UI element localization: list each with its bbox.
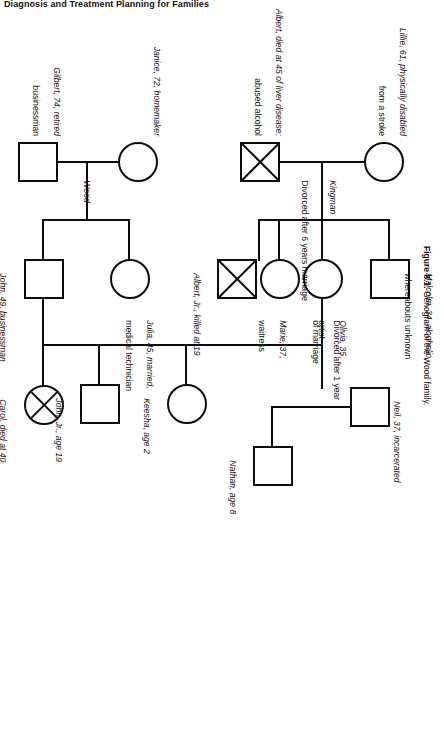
family-name-wood-text: Wood <box>82 180 92 202</box>
person-label-nathan-line1: Nathan, age 8 <box>228 460 238 514</box>
person-label-albert: Albert, died at 45 of liver disease: abu… <box>242 0 294 136</box>
person-label-marie-line2: waitress <box>257 320 267 352</box>
union-riser-neil <box>322 406 350 408</box>
person-label-julia-line1: Julia, 45, married, <box>145 320 155 388</box>
child-link-olivia <box>321 219 323 261</box>
running-head: Diagnosis and Treatment Planning for Fam… <box>4 0 209 9</box>
person-label-neil-line1: Neil, 37, incarcerated <box>392 401 402 482</box>
relationship-note-divorce-1yr-line2: of marriage <box>311 320 321 363</box>
person-label-malcolm-line1: Malcolm, 34, alcoholic, <box>424 273 434 360</box>
child-link-nathan <box>271 406 273 448</box>
family-name-kingman: Kingman <box>317 166 348 214</box>
genogram-canvas: Lillie, 61, physically disabled from a s… <box>0 14 420 714</box>
descent-spine-john-jr <box>42 344 100 346</box>
person-label-julia-line2: medical technician <box>124 320 134 391</box>
child-link-john-jr <box>98 344 100 386</box>
relationship-note-divorce-1yr: Divorced after 1 year of marriage <box>300 306 352 400</box>
relationship-note-divorce-6yr: Divorced after 6 years marriage <box>289 166 320 301</box>
family-name-kingman-text: Kingman <box>328 180 338 214</box>
person-label-lillie-line2: from a stroke <box>377 86 387 136</box>
person-label-malcolm: Malcolm, 34, alcoholic, whereabouts unkn… <box>392 259 444 360</box>
person-label-albert-line2: abused alcohol <box>253 78 263 136</box>
person-label-janice: Janice, 72, homemaker <box>141 32 172 136</box>
person-label-marie: Marie, 37, waitress <box>246 306 298 359</box>
person-node-albert-jr[interactable] <box>217 259 257 299</box>
union-line-john-carol <box>42 299 44 387</box>
family-name-wood: Wood <box>71 166 102 203</box>
person-label-neil: Neil, 37, incarcerated <box>381 387 412 483</box>
person-label-john-line1: John, 49, businessman <box>0 273 8 361</box>
person-node-nathan[interactable] <box>253 446 293 486</box>
child-link-john <box>42 219 44 261</box>
child-link-julia <box>128 219 130 261</box>
person-label-gilbert-line2: businessman <box>31 85 41 136</box>
person-label-keesha: Keesha, age 2 <box>131 384 162 454</box>
figure-page: Diagnosis and Treatment Planning for Fam… <box>0 0 444 735</box>
person-label-albert-jr: Albert, Jr., killed at 19 <box>181 259 212 356</box>
person-label-gilbert: Gilbert, 74, retired businessman <box>20 53 72 136</box>
person-label-gilbert-line1: Gilbert, 74, retired <box>52 67 62 136</box>
person-node-julia[interactable] <box>110 259 150 299</box>
person-node-albert[interactable] <box>240 142 280 182</box>
person-label-john-jr-line1: John, Jr., age 19 <box>54 398 64 462</box>
person-label-lillie: Lillie, 61, physically disabled from a s… <box>366 14 418 136</box>
person-node-keesha[interactable] <box>167 384 207 424</box>
relationship-note-divorce-1yr-line1: Divorced after 1 year <box>332 320 342 400</box>
person-node-gilbert[interactable] <box>18 142 58 182</box>
child-link-marie <box>278 219 280 261</box>
person-label-janice-line1: Janice, 72, homemaker <box>152 47 162 136</box>
descent-line-nathan <box>271 406 323 408</box>
person-label-lillie-line1: Lillie, 61, physically disabled <box>398 28 408 136</box>
person-label-marie-line1: Marie, 37, <box>278 320 288 358</box>
person-label-carol-line1: Carol, died at 40 <box>0 399 8 462</box>
person-label-john: John, 49, businessman <box>0 259 18 362</box>
child-link-albert-jr <box>258 219 260 261</box>
person-label-carol: Carol, died at 40 <box>0 385 18 462</box>
person-label-albert-jr-line1: Albert, Jr., killed at 19 <box>192 273 202 355</box>
person-node-john[interactable] <box>24 259 64 299</box>
person-label-malcolm-line2: whereabouts unknown <box>403 273 413 359</box>
sibship-spine-wood <box>42 219 130 221</box>
person-node-janice[interactable] <box>118 142 158 182</box>
relationship-note-divorce-6yr-text: Divorced after 6 years marriage <box>300 180 310 300</box>
person-label-keesha-line1: Keesha, age 2 <box>142 398 152 453</box>
child-link-malcolm <box>388 219 390 261</box>
person-node-lillie[interactable] <box>364 142 404 182</box>
union-line-gilbert-janice <box>58 161 118 163</box>
person-label-julia: Julia, 45, married, medical technician <box>113 306 165 391</box>
person-label-nathan: Nathan, age 8 <box>217 446 248 514</box>
person-label-john-jr: John, Jr., age 19 <box>43 384 74 462</box>
person-label-albert-line1: Albert, died at 45 of liver disease: <box>274 9 284 136</box>
